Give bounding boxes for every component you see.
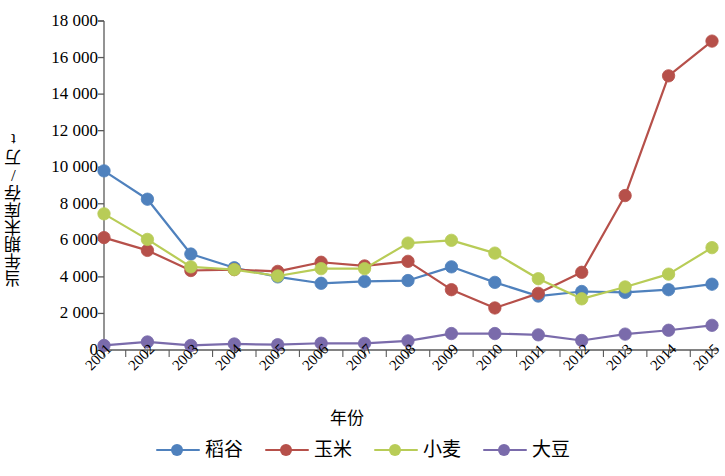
data-point bbox=[706, 278, 718, 290]
legend-label: 玉米 bbox=[314, 440, 352, 459]
data-point bbox=[228, 263, 240, 275]
line-chart: 当年期末库存/万t 02 0004 0006 0008 00010 00012 … bbox=[0, 0, 725, 476]
data-point bbox=[185, 248, 197, 260]
data-point bbox=[489, 276, 501, 288]
y-axis-tick-label: 12 000 bbox=[26, 122, 98, 139]
legend-label: 稻谷 bbox=[205, 440, 243, 459]
y-axis-tick-label: 16 000 bbox=[26, 49, 98, 66]
data-point bbox=[141, 244, 153, 256]
legend-item[interactable]: 大豆 bbox=[483, 440, 570, 459]
data-point bbox=[706, 35, 718, 47]
data-point bbox=[141, 233, 153, 245]
data-point bbox=[489, 247, 501, 259]
data-point bbox=[445, 234, 457, 246]
data-point bbox=[98, 208, 110, 220]
legend-marker-icon bbox=[483, 443, 527, 457]
data-point bbox=[402, 274, 414, 286]
data-point bbox=[619, 328, 631, 340]
legend-marker-icon bbox=[265, 443, 309, 457]
data-point bbox=[445, 261, 457, 273]
data-point bbox=[706, 319, 718, 331]
data-point bbox=[662, 283, 674, 295]
data-point bbox=[576, 293, 588, 305]
y-axis-tick-label: 10 000 bbox=[26, 158, 98, 175]
data-point bbox=[402, 237, 414, 249]
data-point bbox=[315, 262, 327, 274]
legend-item[interactable]: 小麦 bbox=[374, 440, 461, 459]
data-point bbox=[489, 327, 501, 339]
y-axis-tick-label: 8 000 bbox=[26, 195, 98, 212]
data-point bbox=[402, 255, 414, 267]
data-point bbox=[358, 262, 370, 274]
data-point bbox=[532, 287, 544, 299]
data-point bbox=[445, 283, 457, 295]
data-point bbox=[619, 189, 631, 201]
y-axis-tick-label: 2 000 bbox=[26, 304, 98, 321]
legend-marker-icon bbox=[156, 443, 200, 457]
data-point bbox=[358, 275, 370, 287]
data-point bbox=[445, 327, 457, 339]
legend-label: 大豆 bbox=[532, 440, 570, 459]
y-axis-tick-label: 14 000 bbox=[26, 85, 98, 102]
data-point bbox=[532, 273, 544, 285]
data-point bbox=[98, 231, 110, 243]
data-point bbox=[141, 193, 153, 205]
data-point bbox=[315, 277, 327, 289]
data-point bbox=[489, 302, 501, 314]
data-point bbox=[706, 241, 718, 253]
y-axis-tick-label: 6 000 bbox=[26, 231, 98, 248]
axis-lines bbox=[98, 21, 718, 350]
y-axis-tick-label: 4 000 bbox=[26, 268, 98, 285]
chart-legend: 稻谷玉米小麦大豆 bbox=[0, 440, 725, 459]
y-axis-tick-labels: 02 0004 0006 0008 00010 00012 00014 0001… bbox=[20, 0, 98, 476]
legend-item[interactable]: 稻谷 bbox=[156, 440, 243, 459]
data-point bbox=[619, 281, 631, 293]
legend-marker-icon bbox=[374, 443, 418, 457]
data-point bbox=[98, 165, 110, 177]
data-point bbox=[662, 70, 674, 82]
data-point bbox=[185, 261, 197, 273]
legend-label: 小麦 bbox=[423, 440, 461, 459]
x-axis-title: 年份 bbox=[330, 404, 364, 429]
y-axis-tick-label: 18 000 bbox=[26, 12, 98, 29]
legend-item[interactable]: 玉米 bbox=[265, 440, 352, 459]
y-axis-ticks bbox=[98, 21, 104, 350]
data-point bbox=[532, 329, 544, 341]
data-point bbox=[576, 266, 588, 278]
data-point bbox=[272, 270, 284, 282]
data-point bbox=[662, 268, 674, 280]
data-point bbox=[662, 324, 674, 336]
